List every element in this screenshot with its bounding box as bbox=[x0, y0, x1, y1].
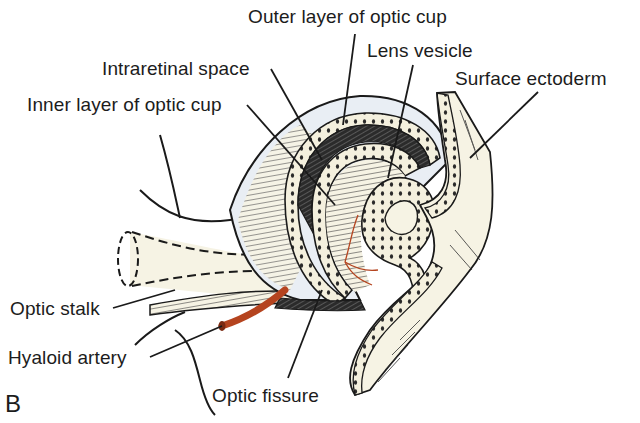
label-optic-stalk: Optic stalk bbox=[10, 298, 100, 320]
label-hyaloid-artery: Hyaloid artery bbox=[8, 347, 127, 369]
panel-letter: B bbox=[5, 391, 21, 417]
label-inner-layer-of-optic-cup: Inner layer of optic cup bbox=[27, 94, 222, 116]
label-intraretinal-space: Intraretinal space bbox=[102, 58, 250, 80]
label-outer-layer-of-optic-cup: Outer layer of optic cup bbox=[248, 6, 447, 28]
label-surface-ectoderm: Surface ectoderm bbox=[455, 68, 607, 90]
embryo-eye-diagram: Outer layer of optic cup Intraretinal sp… bbox=[0, 0, 640, 423]
label-optic-fissure: Optic fissure bbox=[212, 385, 319, 407]
label-lens-vesicle: Lens vesicle bbox=[367, 40, 473, 62]
